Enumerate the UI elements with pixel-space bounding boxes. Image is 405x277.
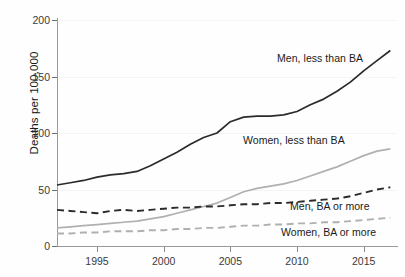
series-line-1 [57,149,390,228]
series-label-1: Women, less than BA [243,134,345,146]
series-label-3: Women, BA or more [281,226,376,238]
series-label-2: Men, BA or more [290,200,370,212]
series-label-0: Men, less than BA [277,52,363,64]
chart-container: Deaths per 100,000 050100150200 19952000… [0,0,405,277]
